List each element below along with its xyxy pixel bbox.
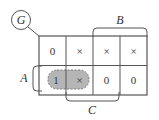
cell-r1-c1: × bbox=[76, 74, 82, 86]
cell-r0-c1: × bbox=[76, 45, 82, 57]
variable-a-label: A bbox=[19, 71, 28, 85]
variable-b-label: B bbox=[116, 13, 124, 27]
cell-r0-c0: 0 bbox=[50, 45, 56, 57]
variable-b-bracket: B bbox=[93, 13, 147, 37]
cell-r1-c0: 1 bbox=[53, 74, 59, 86]
variable-c-label: C bbox=[88, 103, 97, 117]
cell-r0-c2: × bbox=[103, 45, 109, 57]
karnaugh-map: G B 0 × × × 1 × 0 0 A C bbox=[0, 0, 159, 120]
cell-r1-c2: 0 bbox=[104, 74, 110, 86]
function-label-g: G bbox=[12, 11, 40, 37]
cell-r1-c3: 0 bbox=[131, 74, 137, 86]
cell-r0-c3: × bbox=[130, 45, 136, 57]
leader-line bbox=[28, 27, 39, 36]
variable-c-bracket: C bbox=[66, 92, 119, 117]
function-label-text: G bbox=[17, 13, 26, 27]
